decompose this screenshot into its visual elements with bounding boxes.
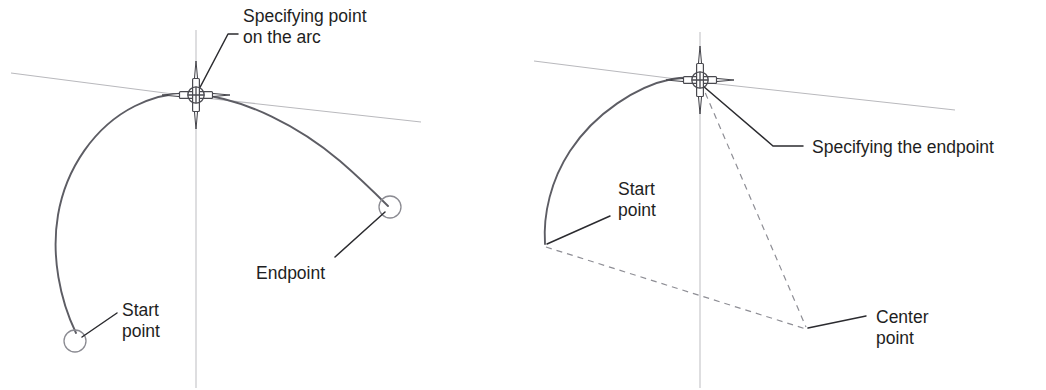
dashed-radius-start-to-center [546, 247, 806, 329]
leader-start-point [547, 216, 610, 244]
label-start-point-right: Start point [618, 179, 660, 220]
crosshair-cursor-left[interactable] [162, 61, 230, 129]
tangent-construction-line [534, 61, 955, 110]
diagram-canvas: Specifying point on the arc Endpoint Sta… [0, 0, 1046, 390]
label-specifying-the-endpoint: Specifying the endpoint [812, 137, 994, 157]
leader-specifying-point-on-arc [196, 34, 238, 95]
label-center-point: Center point [876, 307, 933, 348]
label-endpoint: Endpoint [256, 263, 325, 283]
dashed-radius-endpoint-to-center [701, 83, 806, 327]
panel-left-arc-start-end-point-on-arc: Specifying point on the arc Endpoint Sta… [11, 6, 421, 388]
leader-center-point [808, 316, 866, 328]
arc-path [56, 93, 388, 333]
label-start-point-left: Start point [122, 300, 164, 341]
panel-right-arc-start-end-center: Specifying the endpoint Start point Cent… [534, 32, 994, 388]
start-point-marker[interactable] [64, 330, 86, 352]
arc-construction-diagram: Specifying point on the arc Endpoint Sta… [0, 0, 1046, 390]
leader-start-point [82, 313, 117, 337]
leader-endpoint [335, 212, 385, 257]
label-specifying-point-on-arc: Specifying point on the arc [243, 6, 371, 47]
leader-specifying-the-endpoint [703, 86, 803, 146]
